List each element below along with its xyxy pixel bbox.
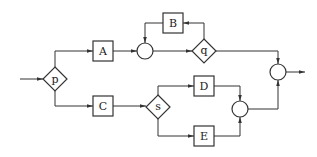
decision-s-label: s xyxy=(155,100,161,113)
junction-1 xyxy=(137,43,153,59)
junction-2 xyxy=(232,101,248,117)
process-a-label: A xyxy=(98,45,108,58)
process-d-label: D xyxy=(200,80,209,93)
process-a: A xyxy=(93,41,113,61)
process-b: B xyxy=(163,13,183,33)
process-d: D xyxy=(194,76,214,96)
flowchart-diagram: p q s A B C D E xyxy=(0,0,317,157)
decision-p-label: p xyxy=(51,73,58,86)
edge-e-to-junction2 xyxy=(214,117,240,136)
edge-q-to-b xyxy=(183,23,204,39)
process-b-label: B xyxy=(169,17,177,30)
junction-3 xyxy=(270,64,286,80)
edge-s-to-e xyxy=(158,119,194,136)
edge-p-to-c xyxy=(55,91,93,106)
edge-d-to-junction2 xyxy=(214,86,240,101)
edge-b-to-junction1 xyxy=(145,23,163,43)
edge-junction2-to-junction3 xyxy=(248,80,278,109)
edge-q-to-junction3 xyxy=(216,51,278,64)
decision-p: p xyxy=(43,67,67,91)
decision-q: q xyxy=(192,39,216,63)
process-c-label: C xyxy=(99,100,107,113)
edge-s-to-d xyxy=(158,86,194,95)
process-e: E xyxy=(194,126,214,146)
process-e-label: E xyxy=(200,130,208,143)
edge-p-to-a xyxy=(55,51,93,67)
process-c: C xyxy=(93,96,113,116)
decision-q-label: q xyxy=(200,44,207,57)
decision-s: s xyxy=(146,95,170,119)
